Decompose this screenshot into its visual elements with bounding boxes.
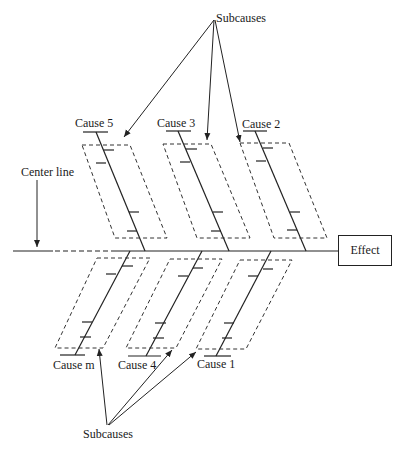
fishbone-diagram — [0, 0, 404, 453]
cause-m-bone — [60, 251, 133, 355]
cause-1-subcause-box — [196, 260, 292, 349]
cause-5-subcause-box — [82, 145, 167, 238]
effect-label: Effect — [350, 243, 379, 258]
cause-5-label: Cause 5 — [75, 116, 113, 130]
cause-3-subcause-box — [163, 144, 250, 238]
cause-1-bone — [204, 251, 273, 356]
cause-2-bone — [243, 131, 306, 251]
center-line-label: Center line — [21, 165, 74, 179]
cause-m-label: Cause m — [53, 358, 95, 372]
cause-2-subcause-box — [240, 143, 327, 238]
subcauses-top-label: Subcauses — [216, 11, 266, 25]
cause-4-label: Cause 4 — [118, 358, 156, 372]
cause-4-bone — [128, 251, 203, 356]
cause-2-label: Cause 2 — [242, 117, 280, 131]
cause-3-label: Cause 3 — [157, 116, 195, 130]
cause-5-bone — [83, 132, 145, 251]
subcauses-bottom-label: Subcauses — [83, 427, 133, 441]
cause-3-bone — [166, 131, 229, 251]
effect-box: Effect — [338, 235, 392, 266]
cause-1-label: Cause 1 — [197, 357, 235, 371]
